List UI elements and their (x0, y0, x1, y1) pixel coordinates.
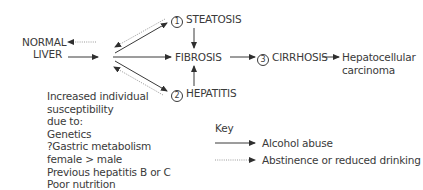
steatosis-label: STEATOSIS (186, 13, 241, 25)
arrow-hub-to-hepatitis (115, 61, 167, 91)
key-item-abstinence: Abstinence or reduced drinking (262, 154, 421, 166)
risk-factors-list: Increased individual susceptibility due … (47, 90, 171, 190)
arrow-steatosis-to-hub-dotted (115, 19, 165, 47)
normal-liver-line2: LIVER (22, 48, 64, 60)
node-steatosis: 1STEATOSIS (171, 13, 241, 28)
number-badge-3: 3 (257, 54, 269, 66)
node-hepatocellular-carcinoma: Hepatocellular carcinoma (342, 51, 416, 77)
node-fibrosis: FIBROSIS (175, 51, 222, 63)
node-cirrhosis: 3CIRRHOSIS (257, 51, 328, 66)
arrow-hub-to-steatosis (115, 23, 167, 53)
fibrosis-label: FIBROSIS (175, 51, 222, 63)
key-title: Key (215, 122, 233, 134)
risk-factor-line: Increased individual (47, 90, 171, 103)
hcc-line2: carcinoma (342, 64, 416, 77)
hcc-line1: Hepatocellular (342, 51, 416, 64)
normal-liver-line1: NORMAL (22, 36, 64, 48)
node-hepatitis: 2HEPATITIS (171, 87, 236, 102)
node-normal-liver: NORMAL LIVER (22, 36, 64, 60)
risk-factor-line: Genetics (47, 128, 171, 141)
risk-factor-line: Poor nutrition (47, 178, 171, 190)
cirrhosis-label: CIRRHOSIS (272, 51, 328, 63)
key-item-alcohol-abuse: Alcohol abuse (262, 137, 333, 149)
risk-factor-line: female > male (47, 153, 171, 166)
hepatitis-label: HEPATITIS (186, 87, 236, 99)
number-badge-2: 2 (171, 90, 183, 102)
risk-factor-line: susceptibility (47, 103, 171, 116)
risk-factor-line: due to: (47, 115, 171, 128)
risk-factor-line: Previous hepatitis B or C (47, 166, 171, 179)
number-badge-1: 1 (171, 16, 183, 28)
risk-factor-line: ?Gastric metabolism (47, 140, 171, 153)
